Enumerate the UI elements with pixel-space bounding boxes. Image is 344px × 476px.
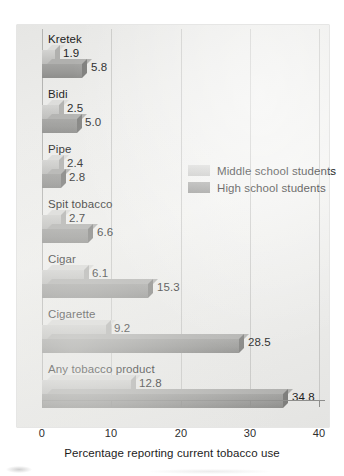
x-axis-tick bbox=[111, 401, 112, 407]
chart-plot-area: Kretek 1.9 5.8 Bidi 2.5 bbox=[17, 25, 329, 427]
x-axis-tick bbox=[181, 401, 182, 407]
legend-swatch-icon bbox=[188, 182, 210, 193]
value-label-middle-school: 12.8 bbox=[139, 377, 162, 389]
value-label-middle-school: 9.2 bbox=[114, 322, 130, 334]
value-label-high-school: 6.6 bbox=[97, 226, 113, 238]
bar-face bbox=[42, 394, 283, 408]
bar-top-bevel bbox=[47, 100, 69, 105]
legend-item-middle-school[interactable]: Middle school students bbox=[188, 162, 334, 179]
value-label-high-school: 5.0 bbox=[85, 116, 101, 128]
chart-legend: Middle school students High school stude… bbox=[188, 162, 334, 196]
x-axis-tick bbox=[250, 401, 251, 407]
bar-high-school[interactable] bbox=[42, 119, 77, 133]
bar-side-bevel bbox=[77, 114, 82, 133]
value-label-middle-school: 2.7 bbox=[69, 212, 85, 224]
value-label-middle-school: 2.4 bbox=[67, 157, 83, 169]
bar-high-school[interactable] bbox=[42, 394, 283, 408]
value-label-middle-school: 2.5 bbox=[67, 102, 83, 114]
scan-artifact bbox=[6, 466, 32, 473]
value-label-high-school: 5.8 bbox=[91, 61, 107, 73]
bar-face bbox=[42, 339, 239, 353]
gridline-40 bbox=[319, 29, 320, 401]
x-tick-label: 20 bbox=[175, 427, 188, 439]
bar-face bbox=[42, 229, 88, 243]
x-axis-tick-labels: 0 10 20 30 40 bbox=[17, 427, 329, 445]
legend-item-high-school[interactable]: High school students bbox=[188, 179, 334, 196]
bar-side-bevel bbox=[61, 169, 66, 188]
category-label: Pipe bbox=[48, 143, 71, 155]
category-label: Any tobacco product bbox=[48, 363, 155, 375]
x-tick-label: 30 bbox=[244, 427, 257, 439]
category-label: Kretek bbox=[48, 33, 82, 45]
x-tick-label: 10 bbox=[105, 427, 118, 439]
category-label: Spit tobacco bbox=[48, 198, 113, 210]
value-label-middle-school: 1.9 bbox=[63, 47, 79, 59]
value-label-high-school: 34.8 bbox=[292, 391, 315, 403]
bar-top-bevel bbox=[47, 334, 249, 339]
bar-high-school[interactable] bbox=[42, 174, 61, 188]
x-tick-label: 40 bbox=[313, 427, 326, 439]
legend-label: Middle school students bbox=[217, 165, 336, 177]
bar-face bbox=[42, 119, 77, 133]
value-label-high-school: 15.3 bbox=[157, 281, 180, 293]
bar-side-bevel bbox=[239, 334, 244, 353]
bar-high-school[interactable] bbox=[42, 284, 148, 298]
value-label-middle-school: 6.1 bbox=[92, 267, 108, 279]
bar-side-bevel bbox=[283, 389, 288, 408]
scanned-page: Kretek 1.9 5.8 Bidi 2.5 bbox=[0, 0, 344, 476]
x-axis-tick bbox=[319, 401, 320, 407]
category-label: Bidi bbox=[48, 88, 68, 100]
bar-face bbox=[42, 174, 61, 188]
bar-high-school[interactable] bbox=[42, 64, 82, 78]
bar-side-bevel bbox=[148, 279, 153, 298]
value-label-high-school: 2.8 bbox=[69, 171, 85, 183]
bar-top-bevel bbox=[47, 389, 293, 394]
bar-top-bevel bbox=[47, 375, 141, 380]
legend-label: High school students bbox=[217, 182, 326, 194]
bar-top-bevel bbox=[47, 169, 71, 174]
x-axis-title: Percentage reporting current tobacco use bbox=[0, 447, 344, 459]
bar-side-bevel bbox=[82, 59, 87, 78]
bar-face bbox=[42, 64, 82, 78]
category-label: Cigarette bbox=[48, 308, 96, 320]
x-tick-label: 0 bbox=[39, 427, 45, 439]
x-axis-line bbox=[42, 400, 325, 401]
bar-face bbox=[42, 284, 148, 298]
bar-top-bevel bbox=[47, 279, 158, 284]
bar-top-bevel bbox=[47, 210, 71, 215]
bar-top-bevel bbox=[47, 155, 69, 160]
bar-side-bevel bbox=[88, 224, 93, 243]
bar-high-school[interactable] bbox=[42, 229, 88, 243]
bar-high-school[interactable] bbox=[42, 339, 239, 353]
scan-artifact bbox=[150, 469, 270, 474]
legend-swatch-icon bbox=[188, 165, 210, 176]
x-axis-tick bbox=[42, 401, 43, 407]
category-label: Cigar bbox=[48, 253, 76, 265]
value-label-high-school: 28.5 bbox=[248, 336, 271, 348]
